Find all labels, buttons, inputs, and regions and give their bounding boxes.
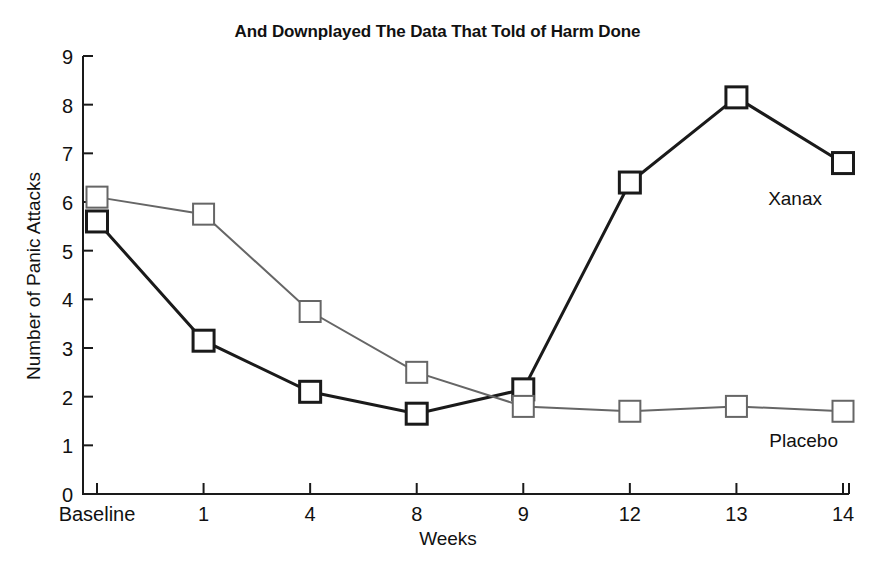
x-tick-label: 8 [411, 503, 422, 525]
data-point-marker [513, 396, 534, 417]
data-point-marker [726, 396, 747, 417]
y-tick-label: 9 [62, 46, 73, 68]
data-point-marker [619, 401, 640, 422]
y-tick-label: 7 [62, 143, 73, 165]
chart-series [87, 87, 854, 424]
series-label-xanax: Xanax [768, 188, 822, 209]
x-tick-label: 4 [305, 503, 316, 525]
data-point-marker [87, 187, 108, 208]
data-point-marker [833, 401, 854, 422]
data-point-marker [193, 330, 214, 351]
x-tick-label: 13 [725, 503, 747, 525]
x-tick-label: 1 [198, 503, 209, 525]
data-point-marker [406, 403, 427, 424]
x-tick-label: 12 [619, 503, 641, 525]
data-point-marker [619, 172, 640, 193]
chart-axes [83, 56, 849, 494]
x-tick-label: 14 [832, 503, 854, 525]
series-placebo [87, 187, 854, 422]
data-point-marker [87, 211, 108, 232]
y-tick-label: 4 [62, 289, 73, 311]
chart-figure: And Downplayed The Data That Told of Har… [0, 0, 875, 580]
x-tick-label: 9 [518, 503, 529, 525]
y-axis-ticks: 0123456789 [62, 46, 93, 506]
axis-spines [83, 56, 849, 494]
y-axis-label: Number of Panic Attacks [23, 172, 44, 380]
data-point-marker [406, 362, 427, 383]
y-tick-label: 6 [62, 192, 73, 214]
line-chart-plot: 0123456789 Baseline1489121314 XanaxPlace… [0, 0, 875, 580]
data-point-marker [300, 301, 321, 322]
series-line [97, 97, 843, 413]
x-axis-ticks: Baseline1489121314 [59, 483, 854, 525]
series-xanax [87, 87, 854, 424]
series-line [97, 197, 843, 411]
data-point-marker [726, 87, 747, 108]
data-point-marker [193, 204, 214, 225]
data-point-marker [833, 153, 854, 174]
series-label-placebo: Placebo [769, 430, 838, 451]
data-point-marker [300, 381, 321, 402]
y-tick-label: 3 [62, 338, 73, 360]
x-axis-label: Weeks [419, 528, 477, 549]
y-tick-label: 8 [62, 95, 73, 117]
y-tick-label: 1 [62, 435, 73, 457]
x-tick-label: Baseline [59, 503, 136, 525]
y-tick-label: 2 [62, 387, 73, 409]
y-tick-label: 5 [62, 241, 73, 263]
